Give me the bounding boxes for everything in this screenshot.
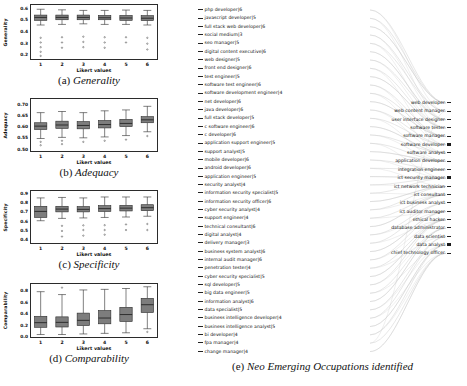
occupation-left-item: php developer|6 — [198, 8, 242, 13]
boxplot-box — [56, 197, 68, 237]
panel-caption-b: (b) Adequacy — [0, 166, 178, 178]
occupation-left-item: delivery manager|3 — [198, 241, 250, 246]
caption-label-b: (b) — [60, 166, 73, 178]
occupation-right-label: ict network technician — [394, 184, 445, 189]
occupation-left-item: net developer|6 — [198, 100, 241, 105]
x-tick-label: 4 — [103, 340, 106, 345]
caption-label-c: (c) — [59, 258, 71, 270]
y-tick-label: 0.55 — [17, 135, 28, 140]
occupation-left-item: sql developer|5 — [198, 283, 240, 288]
bullet-dash-icon — [198, 351, 203, 352]
bullet-dash-icon — [198, 159, 203, 160]
occupation-marker-icon — [447, 111, 451, 112]
bullet-dash-icon — [198, 226, 203, 227]
occupation-right-item: database administrator — [391, 226, 451, 231]
bullet-dash-icon — [198, 126, 203, 127]
occupation-left-label: java developer|6 — [205, 107, 244, 112]
x-tick-label: 6 — [146, 246, 149, 251]
occupation-right-item: ict auditor manager — [399, 210, 451, 215]
occupation-marker-icon — [447, 102, 451, 103]
x-tick-label: 3 — [82, 62, 85, 67]
occupation-left-item: android developer|6 — [198, 166, 251, 171]
x-tick-label: 6 — [146, 62, 149, 67]
y-tick-label: 0.9 — [20, 190, 28, 195]
occupation-left-label: security analyst|4 — [205, 182, 246, 187]
occupation-left-item: software development engineer|4 — [198, 91, 282, 96]
occupation-right-label: ethical hacker — [413, 217, 445, 222]
y-tick-label: 0.50 — [17, 146, 28, 151]
x-tick-label: 3 — [82, 154, 85, 159]
occupation-left-item: cyber security analyst|4 — [198, 208, 260, 213]
occupation-left-label: net developer|6 — [205, 99, 241, 104]
occupation-left-label: web designer|5 — [205, 57, 240, 62]
occupation-left-label: social medium|3 — [205, 32, 243, 37]
bullet-dash-icon — [198, 317, 203, 318]
boxplot-box — [77, 290, 89, 334]
caption-title-a: Generality — [73, 74, 120, 86]
occupation-marker-icon — [447, 136, 451, 137]
boxplot-box — [120, 110, 132, 140]
occupation-right-label: software tester — [410, 125, 445, 130]
x-tick-label: 5 — [124, 154, 127, 159]
occupation-left-label: data specialist|5 — [205, 307, 243, 312]
bullet-dash-icon — [198, 326, 203, 327]
plot-area-generality: Generality0.60.50.40.30.2123456Likert va… — [0, 0, 178, 76]
boxplot-box — [120, 10, 132, 43]
occupation-right-label: software manager — [403, 133, 445, 138]
panel-neo-emerging-occupations: php developer|6javascript developer|5ful… — [178, 0, 467, 386]
occupation-left-label: android developer|6 — [205, 165, 251, 170]
caption-label-e: (e) — [232, 360, 244, 372]
occupation-right-label: ict business analyst — [400, 200, 445, 205]
occupation-left-item: cyber security specialist|5 — [198, 275, 265, 280]
boxplot-box — [77, 198, 89, 236]
occupation-left-item: full stack web developer|6 — [198, 25, 265, 30]
bullet-dash-icon — [198, 51, 203, 52]
occupation-left-label: sql developer|5 — [205, 282, 241, 287]
bullet-dash-icon — [198, 151, 203, 152]
x-axis-label-c: Likert values — [30, 252, 158, 257]
occupation-right-label: web content manager — [394, 108, 445, 113]
occupation-link-edge — [370, 253, 446, 351]
occupation-right-item: ict network technician — [394, 185, 451, 190]
figure-root: Generality0.60.50.40.30.2123456Likert va… — [0, 0, 467, 386]
occupation-left-item: information analyst|6 — [198, 300, 254, 305]
boxplot-box — [34, 198, 46, 221]
x-tick-label: 5 — [124, 340, 127, 345]
y-axis-ticks-b: 0.700.650.600.550.50 — [13, 98, 29, 152]
occupation-left-label: software development engineer|4 — [205, 90, 283, 95]
occupation-right-item: data analyst — [416, 243, 451, 248]
occupation-left-label: internal audit manager|6 — [205, 257, 262, 262]
y-axis-label-text: Generality — [3, 18, 8, 46]
bullet-dash-icon — [198, 284, 203, 285]
occupation-left-item: business intelligence developer|4 — [198, 316, 282, 321]
occupation-right-label: chief technology officer — [391, 250, 445, 255]
caption-title-e: Neo Emerging Occupations identified — [247, 360, 413, 372]
occupation-marker-icon — [447, 161, 451, 162]
x-tick-label: 2 — [60, 154, 63, 159]
occupation-marker-icon — [447, 219, 451, 220]
caption-title-b: Adequacy — [75, 166, 118, 178]
y-tick-label: 0.4 — [20, 237, 28, 242]
boxplot-box — [141, 106, 153, 136]
boxplot-box — [98, 10, 110, 48]
y-tick-label: 0.2 — [20, 52, 28, 57]
boxplot-series-a — [30, 4, 158, 60]
occupation-left-item: mobile developer|6 — [198, 158, 249, 163]
x-tick-label: 1 — [39, 340, 42, 345]
boxplot-series-b — [30, 98, 158, 152]
y-tick-label: 0.5 — [20, 228, 28, 233]
x-tick-label: 2 — [60, 246, 63, 251]
occupation-right-label: application developer — [395, 158, 445, 163]
y-tick-label: 0.6 — [20, 5, 28, 10]
occupation-left-label: digital analyst|4 — [205, 232, 242, 237]
bullet-dash-icon — [198, 18, 203, 19]
bullet-dash-icon — [198, 168, 203, 169]
occupation-marker-icon — [447, 176, 451, 179]
y-tick-label: 0.8 — [20, 200, 28, 205]
occupation-left-label: seo manager|5 — [205, 40, 240, 45]
occupation-right-label: web developer — [411, 100, 445, 105]
occupation-left-label: php developer|6 — [205, 7, 243, 12]
occupation-left-label: change manager|4 — [205, 349, 248, 354]
occupation-left-label: information analyst|6 — [205, 299, 254, 304]
y-axis-label-b: Adequacy — [0, 98, 11, 152]
